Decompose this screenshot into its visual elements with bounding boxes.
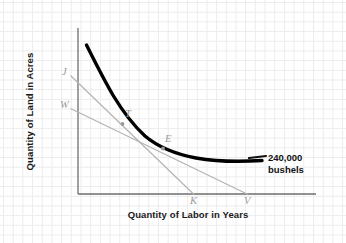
annotation-line-1: 240,000 — [268, 152, 304, 164]
annotation-line-2: bushels — [268, 164, 304, 176]
tangency-point-e — [161, 147, 165, 151]
point-label-e: E — [165, 133, 171, 144]
isocost-line-jk — [71, 76, 195, 195]
point-label-v: V — [244, 195, 250, 206]
point-label-k: K — [190, 195, 197, 206]
point-label-w: W — [60, 99, 69, 110]
tangency-point-t — [121, 122, 125, 126]
isoquant-curve — [87, 45, 263, 161]
y-axis-title: Quantity of Land in Acres — [24, 37, 35, 187]
isoquant-output-annotation: 240,000 bushels — [268, 152, 304, 175]
isocost-line-wv — [71, 109, 249, 195]
x-axis-title: Quantity of Labor in Years — [108, 209, 268, 220]
chart-figure: Quantity of Land in Acres Quantity of La… — [0, 0, 346, 243]
point-label-j: J — [62, 66, 67, 77]
annotation-leader-line — [249, 156, 266, 158]
point-label-t: T — [125, 108, 131, 119]
chart-plot-area — [0, 0, 346, 243]
